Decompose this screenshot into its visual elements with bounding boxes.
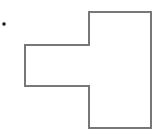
diagram-canvas: [0, 0, 157, 131]
rectilinear-polygon-shape: [25, 12, 151, 128]
bullet-dot: [3, 23, 6, 26]
